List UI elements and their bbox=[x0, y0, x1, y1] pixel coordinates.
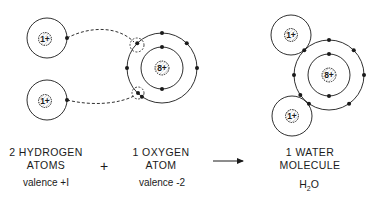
nucleus-charge-label: 1+ bbox=[286, 30, 296, 40]
hydrogen-label-line1: 2 HYDROGEN bbox=[9, 146, 82, 159]
electron bbox=[136, 91, 140, 95]
electron bbox=[185, 41, 189, 45]
oxygen-label-line1: 1 OXYGEN bbox=[133, 146, 190, 159]
electron bbox=[140, 95, 144, 99]
nucleus-charge-label: 8+ bbox=[157, 63, 167, 73]
electron bbox=[125, 66, 129, 70]
water-formation-diagram: 1+1+8+1+1+8+ 2 HYDROGEN ATOMS valence +I… bbox=[0, 0, 379, 198]
electron bbox=[302, 48, 306, 52]
electron bbox=[327, 52, 331, 56]
electron bbox=[327, 38, 331, 42]
electron bbox=[160, 87, 164, 91]
electron bbox=[352, 48, 356, 52]
atoms-layer: 1+1+8+1+1+8+ bbox=[27, 15, 366, 161]
electron bbox=[327, 94, 331, 98]
hydrogen-label: 2 HYDROGEN ATOMS bbox=[9, 146, 82, 172]
oxygen-valence: valence -2 bbox=[139, 177, 185, 188]
nucleus-charge-label: 8+ bbox=[324, 70, 334, 80]
hydrogen-label-line2: ATOMS bbox=[9, 159, 82, 172]
nucleus-charge-label: 1+ bbox=[40, 34, 50, 44]
nucleus-charge-label: 1+ bbox=[287, 111, 297, 121]
electron bbox=[347, 102, 351, 106]
plus-operator: + bbox=[100, 158, 108, 174]
water-label-line2: MOLECULE bbox=[280, 159, 341, 172]
electron bbox=[292, 73, 296, 77]
electron bbox=[362, 73, 366, 77]
electron bbox=[298, 93, 302, 97]
electron bbox=[160, 31, 164, 35]
bond-path-bottom bbox=[67, 96, 134, 103]
water-label: 1 WATER MOLECULE bbox=[280, 146, 341, 172]
hydrogen-valence: valence +I bbox=[23, 177, 69, 188]
electron bbox=[160, 45, 164, 49]
water-label-line1: 1 WATER bbox=[280, 146, 341, 159]
formula-o: O bbox=[311, 178, 319, 190]
nucleus-charge-label: 1+ bbox=[40, 96, 50, 106]
electron bbox=[135, 41, 139, 45]
water-formula: H2O bbox=[299, 178, 319, 192]
bond-path-top bbox=[67, 29, 134, 42]
oxygen-label-line2: ATOM bbox=[133, 159, 190, 172]
oxygen-label: 1 OXYGEN ATOM bbox=[133, 146, 190, 172]
formula-h: H bbox=[299, 178, 307, 190]
electron bbox=[195, 66, 199, 70]
electron bbox=[307, 102, 311, 106]
